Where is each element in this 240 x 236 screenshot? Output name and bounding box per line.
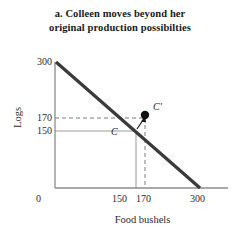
y-tick-label-150: 150 — [18, 125, 52, 136]
point-marker-c-prime — [141, 111, 149, 119]
y-tick-label-170: 170 — [18, 112, 52, 123]
x-tick-label-150: 150 — [112, 193, 127, 204]
ppf-line — [56, 62, 200, 188]
chart-figure: a. Colleen moves beyond her original pro… — [0, 0, 240, 236]
point-label-c-prime: C′ — [153, 101, 162, 112]
y-axis-title: Logs — [12, 93, 23, 143]
y-tick-label-300: 300 — [18, 56, 52, 67]
x-tick-label-170: 170 — [136, 193, 151, 204]
x-tick-label-0: 0 — [36, 193, 41, 204]
x-tick-label-300: 300 — [190, 193, 205, 204]
x-axis-title: Food bushels — [55, 214, 230, 225]
point-label-c: C — [111, 126, 118, 137]
